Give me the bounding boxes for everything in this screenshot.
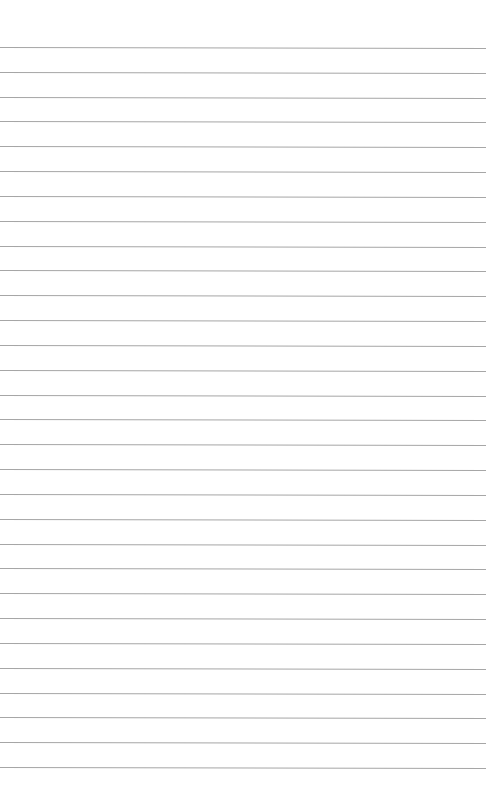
ruled-line: [0, 72, 486, 74]
ruled-line: [0, 643, 486, 645]
ruled-page: [0, 0, 489, 787]
ruled-line: [0, 370, 486, 372]
ruled-line: [0, 419, 486, 421]
ruled-line: [0, 395, 486, 397]
ruled-line: [0, 121, 486, 123]
ruled-line: [0, 47, 486, 49]
ruled-line: [0, 97, 486, 99]
ruled-line: [0, 693, 486, 695]
ruled-line: [0, 544, 486, 546]
ruled-line: [0, 494, 486, 496]
ruled-line: [0, 717, 486, 719]
ruled-line: [0, 444, 486, 446]
ruled-line: [0, 196, 486, 198]
ruled-line: [0, 295, 486, 297]
ruled-line: [0, 767, 486, 769]
ruled-line: [0, 171, 486, 173]
ruled-line: [0, 246, 486, 248]
ruled-line: [0, 568, 486, 570]
ruled-line: [0, 146, 486, 148]
ruled-line: [0, 593, 486, 595]
ruled-line: [0, 469, 486, 471]
ruled-line: [0, 742, 486, 744]
ruled-line: [0, 519, 486, 521]
ruled-line: [0, 668, 486, 670]
ruled-line: [0, 270, 486, 272]
ruled-line: [0, 618, 486, 620]
ruled-line: [0, 320, 486, 322]
ruled-line: [0, 345, 486, 347]
ruled-line: [0, 221, 486, 223]
